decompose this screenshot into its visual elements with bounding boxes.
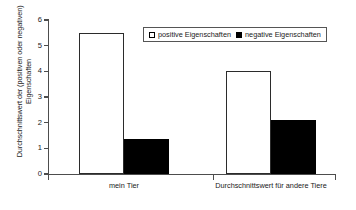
y-axis-tick-label: 6 — [29, 16, 42, 24]
bar-chart: Durchschnittswert der (positiven oder ne… — [0, 0, 356, 210]
y-axis-tick-label: 2 — [29, 119, 42, 127]
y-axis-tick-label: 4 — [29, 67, 42, 75]
hollow-square-icon — [149, 32, 155, 38]
bar-positive-group-1 — [79, 33, 124, 174]
bar-positive-group-2 — [226, 71, 271, 174]
y-axis-tick-label-text: 6 — [29, 16, 42, 24]
chart-legend: positive Eigenschaften negative Eigensch… — [143, 27, 327, 42]
y-axis-title-line-1: Durchschnittswert der (positiven oder ne… — [15, 0, 24, 169]
y-axis-tick — [44, 96, 49, 97]
y-axis-tick-label: 5 — [29, 42, 42, 50]
y-axis-tick-label: 0 — [29, 170, 42, 178]
y-axis-tick-label-text: 0 — [29, 170, 42, 178]
x-axis-tick-start — [48, 175, 49, 180]
x-axis-line — [48, 174, 336, 175]
y-axis-tick-label-text: 3 — [29, 93, 42, 101]
bar-negative-group-1 — [124, 139, 169, 174]
filled-square-icon — [236, 32, 242, 38]
legend-label-negative: negative Eigenschaften — [245, 31, 321, 39]
y-axis-tick-label-text: 5 — [29, 42, 42, 50]
y-axis-tick — [44, 122, 49, 123]
legend-entry-positive: positive Eigenschaften — [149, 31, 231, 39]
y-axis-tick-label-text: 1 — [29, 144, 42, 152]
x-axis-category-label: Durchschnittswert für andere Tiere — [181, 181, 356, 190]
y-axis-tick-label-text: 2 — [29, 119, 42, 127]
y-axis-tick — [44, 19, 49, 20]
x-axis-tick-divider — [213, 175, 214, 180]
y-axis-tick-label-text: 4 — [29, 67, 42, 75]
y-axis-tick-label: 1 — [29, 144, 42, 152]
y-axis-tick — [44, 45, 49, 46]
y-axis-tick — [44, 148, 49, 149]
legend-entry-negative: negative Eigenschaften — [236, 31, 321, 39]
y-axis-tick-label: 3 — [29, 93, 42, 101]
legend-label-positive: positive Eigenschaften — [158, 31, 231, 39]
bar-negative-group-2 — [271, 120, 316, 174]
y-axis-tick — [44, 71, 49, 72]
x-axis-tick-end — [335, 175, 336, 180]
